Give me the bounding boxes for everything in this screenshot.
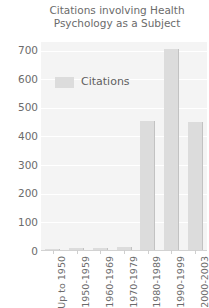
x-axis-tick-label: 2000-2003 (200, 256, 209, 308)
plot-area (41, 42, 207, 251)
gridline (41, 222, 207, 223)
bar-2000-2003 (188, 122, 203, 251)
gridline (41, 51, 207, 52)
gridline (41, 165, 207, 166)
legend-swatch-citations (55, 77, 74, 88)
y-axis-tick-label: 600 (2, 74, 38, 85)
x-axis-tick (124, 250, 125, 254)
bar-1980-1989 (140, 121, 155, 251)
x-axis-tick-label: 1950-1959 (81, 256, 91, 308)
x-axis-tick-label: 1980-1989 (152, 256, 162, 308)
chart-legend: Citations (55, 76, 130, 88)
y-axis-tick-label: 200 (2, 188, 38, 199)
y-axis-tick-label: 400 (2, 131, 38, 142)
bar-1990-1999 (164, 49, 179, 251)
gridline (41, 136, 207, 137)
y-axis-tick-label: 100 (2, 217, 38, 228)
x-axis-tick (53, 250, 54, 254)
x-axis-tick (195, 250, 196, 254)
gridline (41, 194, 207, 195)
chart-title: Citations involving Health Psychology as… (28, 4, 206, 29)
x-axis-tick-label: 1990-1999 (176, 256, 186, 308)
y-axis-tick-label: 0 (2, 246, 38, 257)
y-axis: 0100200300400500600700 (0, 0, 38, 308)
x-axis-tick-label: 1960-1969 (105, 256, 115, 308)
x-axis-tick (77, 250, 78, 254)
y-axis-tick-label: 300 (2, 160, 38, 171)
x-axis-tick (100, 250, 101, 254)
y-axis-tick-label: 700 (2, 45, 38, 56)
gridline (41, 108, 207, 109)
x-axis-tick (148, 250, 149, 254)
x-axis-tick-label: Up to 1950 (57, 256, 67, 308)
legend-label-citations: Citations (81, 76, 130, 88)
x-axis-tick-label: 1970-1979 (129, 256, 139, 308)
y-axis-tick-label: 500 (2, 102, 38, 113)
x-axis-tick (171, 250, 172, 254)
bar-chart: Citations involving Health Psychology as… (0, 0, 209, 308)
